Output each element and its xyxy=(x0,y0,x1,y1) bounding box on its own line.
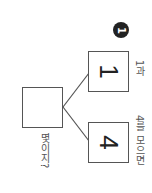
whole-answer-box[interactable] xyxy=(22,87,63,128)
whole-label: 몇이지? xyxy=(37,133,52,168)
part-b-box: 4 xyxy=(88,122,129,163)
part-b-label: 4를 모으면 xyxy=(132,115,147,165)
part-a-value: 1 xyxy=(89,52,128,91)
whole-value xyxy=(23,88,62,127)
part-b-value: 4 xyxy=(89,123,128,162)
part-a-label: 1과 xyxy=(132,60,147,76)
part-a-box: 1 xyxy=(88,51,129,92)
